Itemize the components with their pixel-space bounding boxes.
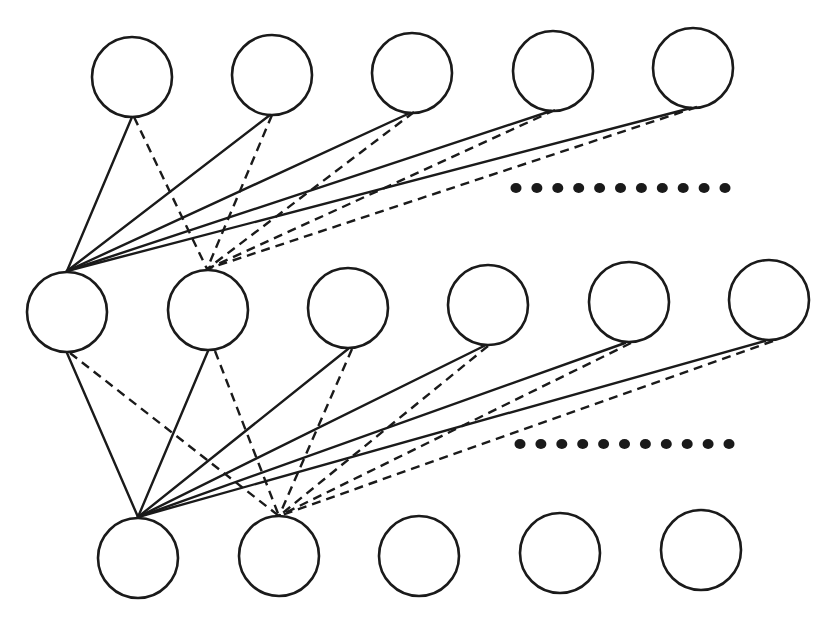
lower-ellipsis-dot [515, 439, 526, 449]
dashed-edge [279, 343, 631, 516]
upper-ellipsis-dot [636, 183, 647, 193]
bottom-layer-node-1 [98, 518, 178, 598]
upper-ellipsis-dot [573, 183, 584, 193]
lower-ellipsis-dot [703, 439, 714, 449]
top-layer-node-2 [232, 35, 312, 115]
lower-ellipsis-dot [598, 439, 609, 449]
lower-ellipsis-dot [577, 439, 588, 449]
solid-edge [138, 343, 625, 517]
lower-ellipsis-dot [661, 439, 672, 449]
solid-edge [67, 117, 132, 271]
middle-layer-node-3 [308, 268, 388, 348]
upper-ellipsis-dot [699, 183, 710, 193]
bottom-layer-node-4 [520, 513, 600, 593]
middle-layer-node-6 [729, 260, 809, 340]
dashed-edge [215, 351, 279, 516]
upper-ellipsis-dot [615, 183, 626, 193]
lower-ellipsis-dot [535, 439, 546, 449]
top-layer-node-4 [513, 31, 593, 111]
bottom-layer-node-3 [379, 516, 459, 596]
solid-edge [138, 341, 765, 517]
top-layer-node-1 [92, 37, 172, 117]
upper-ellipsis-dot [678, 183, 689, 193]
upper-ellipsis-dot [594, 183, 605, 193]
upper-ellipsis-dot [531, 183, 542, 193]
dashed-edge [279, 341, 773, 516]
network-diagram-canvas [0, 0, 830, 625]
solid-edge [67, 353, 138, 517]
network-diagram [0, 0, 830, 625]
top-layer-node-3 [372, 33, 452, 113]
middle-layer-node-4 [448, 265, 528, 345]
bottom-layer-node-2 [239, 516, 319, 596]
solid-edge [138, 351, 208, 517]
bottom-layer-node-5 [661, 510, 741, 590]
middle-layer-node-5 [589, 262, 669, 342]
upper-ellipsis-dot [657, 183, 668, 193]
upper-ellipsis-dot [552, 183, 563, 193]
upper-ellipsis-dot [720, 183, 731, 193]
lower-ellipsis-dot [619, 439, 630, 449]
lower-ellipsis-dot [640, 439, 651, 449]
lower-ellipsis-dot [724, 439, 735, 449]
middle-layer-node-1 [27, 272, 107, 352]
top-layer-node-5 [653, 28, 733, 108]
middle-layer-node-2 [168, 270, 248, 350]
upper-ellipsis-dot [511, 183, 522, 193]
lower-ellipsis-dot [556, 439, 567, 449]
solid-edge [67, 111, 551, 271]
solid-edge [67, 115, 270, 271]
lower-ellipsis-dot [682, 439, 693, 449]
